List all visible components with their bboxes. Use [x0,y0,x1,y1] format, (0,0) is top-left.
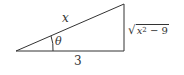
radicand: x2 − 9 [136,24,169,37]
triangle-diagram [0,0,184,75]
radical-sign: √ [128,24,136,36]
radicand-exponent: 2 [142,26,146,34]
angle-label: θ [55,35,62,48]
hypotenuse-label: x [62,11,69,25]
adjacent-label: 3 [74,54,82,68]
radicand-rest: − 9 [147,25,168,36]
opposite-label: √ x2 − 9 [128,24,169,37]
angle-arc [51,36,53,51]
hypotenuse [16,4,124,51]
